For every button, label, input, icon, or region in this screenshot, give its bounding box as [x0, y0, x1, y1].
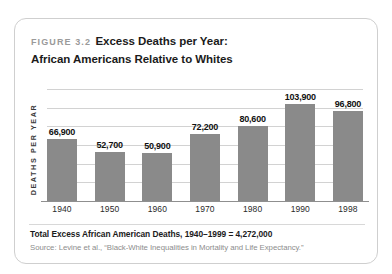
bar-slot: 72,200	[190, 89, 220, 201]
bar	[47, 139, 77, 201]
x-axis-tick-label: 1940	[47, 204, 77, 214]
footer-source-line: Source: Levine et al., “Black-White Ineq…	[30, 243, 374, 252]
figure-title-line-2: African Americans Relative to Whites	[31, 53, 233, 65]
x-axis-tick-label: 1960	[142, 204, 172, 214]
y-axis-title: DEATHS PER YEAR	[29, 95, 38, 205]
bar-slot: 66,900	[47, 89, 77, 201]
bar	[285, 104, 315, 201]
bar-slot: 80,600	[238, 89, 268, 201]
figure-heading: FIGURE 3.2 Excess Deaths per Year: Afric…	[31, 32, 363, 67]
bar-value-label: 50,900	[144, 141, 170, 151]
bar-series: 66,90052,70050,90072,20080,600103,90096,…	[47, 89, 363, 201]
figure-number-label: FIGURE 3.2	[31, 37, 91, 47]
x-axis-line	[41, 201, 369, 202]
bar	[142, 153, 172, 201]
figure-title-line-1: Excess Deaths per Year:	[95, 35, 227, 47]
bar-slot: 50,900	[142, 89, 172, 201]
bar-value-label: 66,900	[49, 127, 75, 137]
x-axis-tick-label: 1980	[238, 204, 268, 214]
bar	[95, 152, 125, 201]
plot-area: 66,90052,70050,90072,20080,600103,90096,…	[47, 89, 363, 201]
bar-slot: 103,900	[285, 89, 315, 201]
bar	[190, 134, 220, 201]
bar	[333, 111, 363, 201]
footer-divider	[29, 224, 365, 225]
bar	[238, 126, 268, 201]
bar-value-label: 80,600	[239, 114, 265, 124]
bar-value-label: 103,900	[285, 92, 316, 102]
x-axis-tick-label: 1970	[190, 204, 220, 214]
bar-value-label: 96,800	[335, 99, 361, 109]
bar-value-label: 52,700	[96, 140, 122, 150]
x-axis-labels: 1940195019601970198019901998	[47, 204, 363, 214]
bar-value-label: 72,200	[192, 122, 218, 132]
figure-card: FIGURE 3.2 Excess Deaths per Year: Afric…	[14, 18, 378, 264]
bar-slot: 52,700	[95, 89, 125, 201]
x-axis-tick-label: 1990	[285, 204, 315, 214]
chart-plot-region: DEATHS PER YEAR 66,90052,70050,90072,200…	[15, 69, 379, 221]
footer-total-line: Total Excess African American Deaths, 19…	[30, 229, 368, 239]
x-axis-tick-label: 1998	[333, 204, 363, 214]
bar-slot: 96,800	[333, 89, 363, 201]
x-axis-tick-label: 1950	[95, 204, 125, 214]
